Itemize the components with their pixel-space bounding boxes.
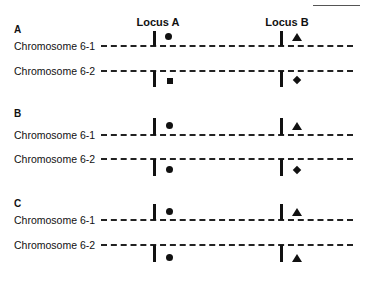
- triangle-icon: [292, 254, 302, 262]
- circle-icon: [166, 122, 173, 129]
- chromosome-label: Chromosome 6-1: [14, 129, 95, 141]
- circle-icon: [165, 33, 172, 40]
- chromosome-label: Chromosome 6-2: [14, 239, 95, 251]
- locus-a-bar: [153, 204, 156, 220]
- locus-a-header: Locus A: [137, 16, 180, 28]
- locus-a-bar: [153, 159, 156, 176]
- locus-b-bar: [280, 159, 283, 176]
- circle-icon: [166, 254, 173, 261]
- chromosome-line: [101, 70, 353, 72]
- chromosome-label: Chromosome 6-1: [14, 214, 95, 226]
- chromosome-label: Chromosome 6-2: [14, 65, 95, 77]
- top-rule: [313, 5, 360, 6]
- chromosome-line: [101, 134, 353, 136]
- diamond-icon: [293, 76, 301, 84]
- panel-label: C: [14, 198, 21, 209]
- locus-b-bar: [280, 118, 283, 135]
- locus-b-bar: [280, 31, 283, 46]
- triangle-icon: [292, 122, 302, 130]
- chromosome-label: Chromosome 6-1: [14, 40, 95, 52]
- locus-a-bar: [153, 31, 156, 46]
- chromosome-line: [101, 45, 353, 47]
- chromosome-line: [101, 244, 353, 246]
- diamond-icon: [293, 166, 301, 174]
- locus-a-bar: [153, 245, 156, 262]
- locus-a-bar: [153, 118, 156, 135]
- locus-b-bar: [280, 204, 283, 220]
- circle-icon: [166, 166, 173, 173]
- chromosome-label: Chromosome 6-2: [14, 153, 95, 165]
- locus-a-bar: [153, 71, 156, 87]
- triangle-icon: [292, 208, 302, 216]
- circle-icon: [166, 208, 173, 215]
- panel-label: B: [14, 108, 21, 119]
- locus-b-header: Locus B: [265, 16, 308, 28]
- locus-b-bar: [280, 71, 283, 87]
- chromosome-line: [101, 219, 353, 221]
- locus-b-bar: [280, 245, 283, 262]
- chromosome-line: [101, 158, 353, 160]
- panel-label: A: [14, 24, 21, 35]
- square-icon: [167, 78, 173, 84]
- triangle-icon: [292, 33, 302, 41]
